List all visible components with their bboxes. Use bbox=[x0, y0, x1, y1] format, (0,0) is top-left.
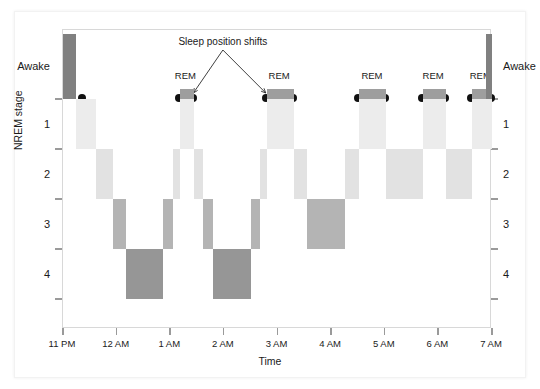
y-axis-label-left: 3 bbox=[0, 218, 50, 230]
x-axis-label: 4 AM bbox=[319, 338, 341, 349]
y-axis-label-left: 4 bbox=[0, 268, 50, 280]
sleep-stage-bar bbox=[194, 149, 203, 199]
x-axis-tick bbox=[116, 328, 118, 335]
x-axis-tick bbox=[169, 328, 171, 335]
sleep-stage-bar bbox=[446, 149, 471, 199]
y-axis-tick bbox=[491, 248, 498, 250]
y-axis-label-left: Awake bbox=[0, 60, 50, 72]
sleep-position-shifts-annotation: Sleep position shifts bbox=[178, 36, 267, 47]
sleep-stage-bar bbox=[180, 99, 194, 149]
sleep-stage-bar bbox=[423, 89, 446, 99]
x-axis-tick bbox=[62, 328, 64, 335]
hypnogram-figure: NREM stage Awake1234Awake123411 PM12 AM1… bbox=[0, 0, 540, 389]
y-axis-label-right: 4 bbox=[503, 268, 509, 280]
y-axis-tick bbox=[55, 198, 62, 200]
sleep-stage-bar bbox=[203, 199, 213, 249]
y-axis-label-right: 2 bbox=[503, 168, 509, 180]
sleep-stage-bar bbox=[260, 149, 266, 199]
y-axis-label-left: 2 bbox=[0, 168, 50, 180]
x-axis-tick bbox=[223, 328, 225, 335]
y-axis-label-left: 1 bbox=[0, 118, 50, 130]
sleep-stage-bar bbox=[173, 149, 179, 199]
rem-label: REM bbox=[361, 70, 382, 81]
x-axis-tick bbox=[491, 328, 493, 335]
y-axis-label-right: Awake bbox=[503, 60, 536, 72]
x-axis-label: 3 AM bbox=[266, 338, 288, 349]
x-axis-label: 7 AM bbox=[480, 338, 502, 349]
x-axis-tick bbox=[277, 328, 279, 335]
x-axis-label: 6 AM bbox=[427, 338, 449, 349]
y-axis-tick bbox=[55, 298, 62, 300]
y-axis-tick bbox=[55, 98, 62, 100]
rem-label: REM bbox=[423, 70, 444, 81]
sleep-stage-bar bbox=[113, 199, 126, 249]
x-axis-tick bbox=[384, 328, 386, 335]
x-axis-label: 12 AM bbox=[102, 338, 129, 349]
rem-label: REM bbox=[269, 70, 290, 81]
rem-label: REM bbox=[175, 70, 196, 81]
y-axis-tick bbox=[55, 248, 62, 250]
x-axis-tick bbox=[437, 328, 439, 335]
x-axis-label: 11 PM bbox=[49, 338, 76, 349]
sleep-stage-bar bbox=[267, 89, 294, 99]
sleep-stage-bar bbox=[251, 199, 261, 249]
x-axis-tick bbox=[330, 328, 332, 335]
sleep-stage-bar bbox=[126, 249, 163, 299]
sleep-stage-bar bbox=[359, 89, 386, 99]
sleep-stage-bar bbox=[96, 149, 113, 199]
sleep-stage-bar bbox=[294, 149, 307, 199]
sleep-stage-bar bbox=[76, 99, 96, 149]
x-axis-title: Time bbox=[0, 355, 540, 367]
sleep-stage-bar bbox=[472, 99, 492, 149]
sleep-stage-bar bbox=[307, 199, 345, 249]
sleep-stage-bar bbox=[163, 199, 173, 249]
y-axis-label-right: 1 bbox=[503, 118, 509, 130]
sleep-stage-bar bbox=[213, 249, 251, 299]
sleep-stage-bar bbox=[267, 99, 294, 149]
y-axis-label-right: 3 bbox=[503, 218, 509, 230]
sleep-stage-bar bbox=[63, 34, 76, 99]
x-axis-label: 1 AM bbox=[158, 338, 180, 349]
sleep-stage-bar bbox=[345, 149, 359, 199]
sleep-stage-bar bbox=[359, 99, 386, 149]
y-axis-tick bbox=[491, 198, 498, 200]
sleep-stage-bar bbox=[386, 149, 424, 199]
y-axis-tick bbox=[55, 148, 62, 150]
x-axis-label: 2 AM bbox=[212, 338, 234, 349]
sleep-stage-bar bbox=[180, 89, 194, 99]
sleep-stage-bar bbox=[486, 34, 492, 99]
y-axis-tick bbox=[491, 298, 498, 300]
sleep-stage-bar bbox=[423, 99, 446, 149]
x-axis-label: 5 AM bbox=[373, 338, 395, 349]
y-axis-tick bbox=[491, 148, 498, 150]
